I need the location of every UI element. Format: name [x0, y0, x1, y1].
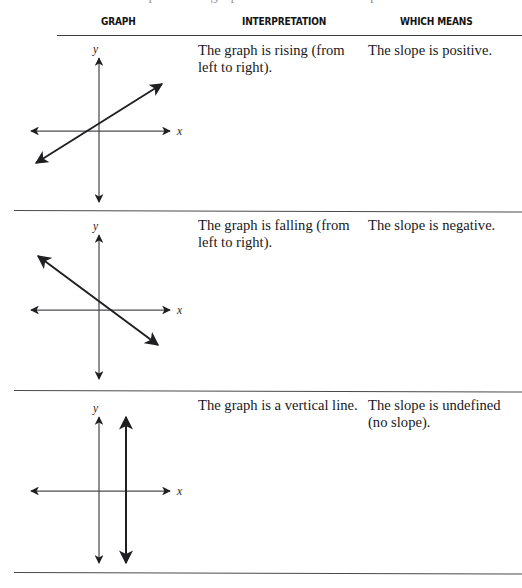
column-header-graph: GRAPH	[101, 15, 136, 27]
which-means-text: The slope is undefined (no slope).	[368, 397, 522, 431]
graph-cell-vertical-line: x y	[14, 391, 194, 572]
graph-cell-falling-line: x y	[14, 211, 194, 390]
cut-off-heading-text: s slope on the graph of a line and its s…	[0, 0, 522, 11]
y-axis-label: y	[92, 220, 99, 233]
column-header-which-means: WHICH MEANS	[400, 15, 473, 27]
table-row: x y The graph is rising (from left to ri…	[0, 36, 522, 210]
table-row: x y The graph is a vertical line. The sl…	[0, 391, 522, 572]
x-axis-label: x	[176, 125, 183, 137]
x-axis-label: x	[176, 485, 183, 497]
which-means-text: The slope is negative.	[368, 217, 522, 234]
falling-line	[38, 256, 158, 345]
table-header-row: GRAPH INTERPRETATION WHICH MEANS	[0, 11, 522, 33]
cut-off-heading-label: s slope on the graph of a line and its s…	[120, 0, 385, 4]
bottom-divider-rule	[14, 572, 522, 574]
x-axis-label: x	[176, 304, 183, 316]
rising-line-diagram: x y	[14, 36, 194, 210]
graph-cell-rising-line: x y	[14, 36, 194, 210]
y-axis-label: y	[92, 402, 99, 415]
interpretation-text: The graph is rising (from left to right)…	[198, 42, 366, 76]
interpretation-text: The graph is a vertical line.	[198, 397, 366, 414]
interpretation-text: The graph is falling (from left to right…	[198, 217, 366, 251]
falling-line-diagram: x y	[14, 211, 194, 390]
table-row: x y The graph is falling (from left to r…	[0, 211, 522, 390]
which-means-text: The slope is positive.	[368, 42, 522, 59]
column-header-interpretation: INTERPRETATION	[242, 15, 326, 27]
vertical-line-diagram: x y	[14, 391, 194, 572]
y-axis-label: y	[92, 43, 99, 56]
